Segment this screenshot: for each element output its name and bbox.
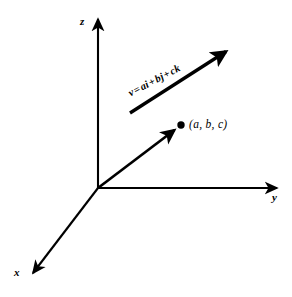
- diagram-canvas: [0, 0, 292, 297]
- z-axis-label: z: [80, 16, 84, 27]
- vector-diagram-figure: z y x (a, b, c) v=ai+bj+ck: [0, 0, 292, 297]
- y-axis-label: y: [272, 192, 277, 203]
- point-abc-dot: [177, 121, 184, 128]
- x-axis-label: x: [14, 267, 20, 278]
- point-coordinates-label: (a, b, c): [189, 118, 227, 130]
- position-vector-line: [98, 130, 175, 188]
- x-axis-line: [33, 188, 98, 273]
